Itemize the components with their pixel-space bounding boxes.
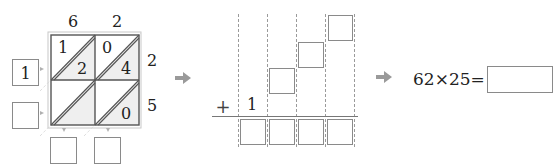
arrow-right-icon [174,71,192,85]
equation-answer-box[interactable] [487,66,553,93]
arrow-right-icon [375,70,393,84]
plus-sign: + [214,98,232,116]
result-box-2[interactable] [269,119,295,145]
left-answer-value-1: 1 [13,63,38,82]
column-addition: + 1 [200,0,370,164]
result-box-3[interactable] [298,119,324,145]
carry-digit: 1 [244,97,260,113]
cell-0-1-tens: 0 [99,40,115,56]
result-box-1[interactable] [240,119,266,145]
equation: 62×25= [413,66,485,92]
left-answer-box-2[interactable] [12,102,39,129]
partial-box-2[interactable] [298,42,324,68]
column-guide-5 [354,14,355,147]
cell-0-0-tens: 1 [55,40,71,56]
bottom-answer-box-1[interactable] [50,137,77,164]
partial-box-1[interactable] [269,68,295,94]
cell-1-1-ones: 0 [118,106,134,122]
equation-expression: 62×25= [413,69,485,89]
left-answer-box-1[interactable]: 1 [12,59,39,86]
column-guide-2 [267,14,268,147]
column-guide-4 [325,14,326,147]
lattice-diagram: 6 2 2 5 [0,0,160,164]
column-guide-1 [238,14,239,147]
cell-0-0-ones: 2 [74,61,90,77]
result-box-4[interactable] [327,119,353,145]
sum-line [212,116,358,117]
bottom-answer-box-2[interactable] [94,137,121,164]
partial-box-3[interactable] [328,15,353,41]
cell-0-1-ones: 4 [118,61,134,77]
column-guide-3 [296,14,297,147]
